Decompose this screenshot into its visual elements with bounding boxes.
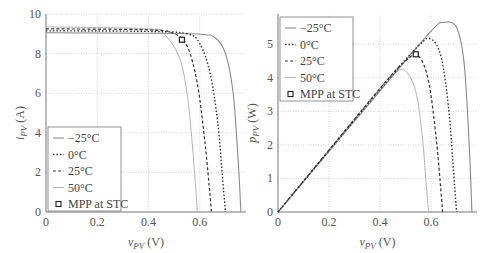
x-tick-label: 0.2 xyxy=(90,215,105,229)
plot-left: 00.20.40.60246810vPV (V)iPV (A)−25°C0°C2… xyxy=(13,7,246,251)
y-tick-label: 0 xyxy=(35,205,41,219)
x-tick-label: 0.2 xyxy=(322,215,337,229)
y-tick-label: 5 xyxy=(267,37,273,51)
legend-label: 0°C xyxy=(300,38,319,52)
legend: −25°C0°C25°C50°CMPP at STC xyxy=(280,17,360,101)
y-tick-label: 4 xyxy=(35,126,41,140)
mpp-marker xyxy=(179,37,184,42)
legend-marker-icon xyxy=(56,202,61,207)
x-tick-label: 0 xyxy=(43,215,49,229)
legend-marker-icon xyxy=(288,92,293,97)
legend-label: 50°C xyxy=(300,71,325,85)
x-tick-label: 0.6 xyxy=(424,215,439,229)
figure: 00.20.40.60246810vPV (V)iPV (A)−25°C0°C2… xyxy=(0,0,487,253)
legend-label: MPP at STC xyxy=(68,197,128,211)
legend-label: 50°C xyxy=(68,181,93,195)
legend-label: −25°C xyxy=(68,131,100,145)
y-axis-label: pPV (W) xyxy=(245,103,261,143)
y-tick-label: 2 xyxy=(267,138,273,152)
x-tick-label: 0 xyxy=(275,215,281,229)
y-tick-label: 2 xyxy=(35,165,41,179)
legend-label: 25°C xyxy=(68,164,93,178)
legend-label: −25°C xyxy=(300,21,332,35)
y-tick-label: 1 xyxy=(267,171,273,185)
y-tick-label: 3 xyxy=(267,104,273,118)
x-axis-label: vPV (V) xyxy=(128,235,164,251)
mpp-marker xyxy=(413,52,418,57)
y-axis-label: iPV (A) xyxy=(13,106,29,140)
y-tick-label: 4 xyxy=(267,71,273,85)
legend-label: 0°C xyxy=(68,148,87,162)
y-tick-label: 6 xyxy=(35,86,41,100)
x-axis-label: vPV (V) xyxy=(360,235,396,251)
legend-label: MPP at STC xyxy=(300,87,360,101)
plot-right: 00.20.40.6012345vPV (V)pPV (W)−25°C0°C25… xyxy=(245,14,477,251)
x-tick-label: 0.4 xyxy=(373,215,388,229)
legend: −25°C0°C25°C50°CMPP at STC xyxy=(48,127,128,211)
x-tick-label: 0.4 xyxy=(141,215,156,229)
x-tick-label: 0.6 xyxy=(192,215,207,229)
y-tick-label: 10 xyxy=(29,7,41,21)
y-tick-label: 0 xyxy=(267,205,273,219)
legend-label: 25°C xyxy=(300,54,325,68)
y-tick-label: 8 xyxy=(35,47,41,61)
